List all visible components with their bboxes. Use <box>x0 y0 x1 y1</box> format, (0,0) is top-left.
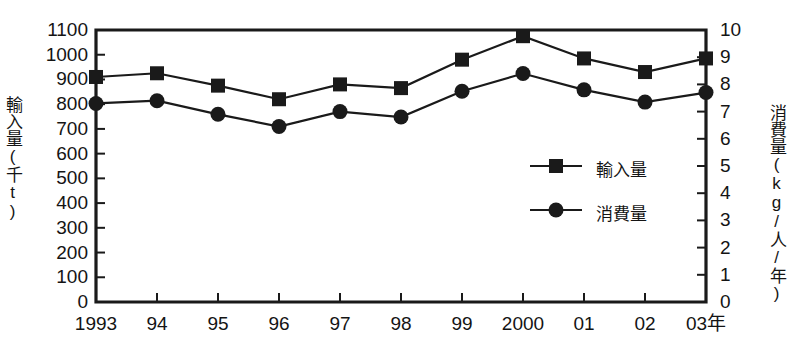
data-point-marker <box>455 53 469 67</box>
data-series-layer <box>89 29 714 134</box>
data-point-marker <box>333 77 347 91</box>
legend-label-import: 輸入量 <box>596 156 647 181</box>
data-point-marker <box>272 119 287 134</box>
data-point-marker <box>333 104 348 119</box>
data-point-marker <box>699 51 713 65</box>
chart-figure: 輸入量(千t) 消費量(kg/人/年) 11001000900800700600… <box>0 0 798 351</box>
data-point-marker <box>150 93 165 108</box>
data-point-marker <box>211 107 226 122</box>
data-point-marker <box>89 70 103 84</box>
data-point-marker <box>211 79 225 93</box>
data-point-marker <box>577 82 592 97</box>
legend <box>530 159 582 218</box>
data-point-marker <box>150 66 164 80</box>
data-point-marker <box>577 51 591 65</box>
plot-area <box>0 0 798 351</box>
data-point-marker <box>516 66 531 81</box>
data-point-marker <box>516 29 530 43</box>
legend-marker <box>549 203 564 218</box>
data-point-marker <box>455 84 470 99</box>
data-point-marker <box>394 81 408 95</box>
legend-marker <box>549 159 563 173</box>
data-point-marker <box>272 92 286 106</box>
data-point-marker <box>89 96 104 111</box>
data-point-marker <box>638 95 653 110</box>
data-point-marker <box>638 65 652 79</box>
legend-label-consumption: 消費量 <box>596 200 647 225</box>
data-point-marker <box>394 110 409 125</box>
data-point-marker <box>699 85 714 100</box>
